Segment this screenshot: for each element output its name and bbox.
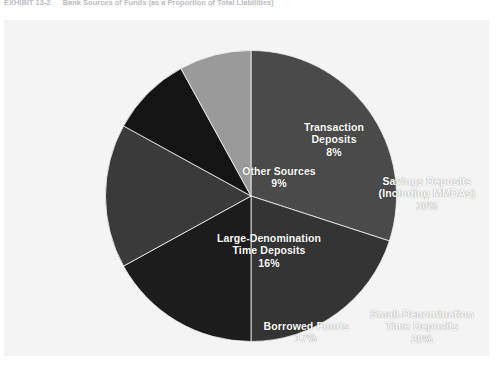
chart-panel: Savings Deposits (Including MMDAs) 30% S… (4, 20, 489, 356)
pie-chart: Savings Deposits (Including MMDAs) 30% S… (105, 50, 397, 342)
exhibit-caption: EXHIBIT 13-2 Bank Sources of Funds (as a… (4, 0, 474, 8)
exhibit-title: Bank Sources of Funds (as a Proportion o… (63, 0, 274, 7)
pie-chart-svg (105, 50, 397, 342)
pie-slice-group (105, 51, 396, 342)
exhibit-number: EXHIBIT 13-2 (4, 0, 51, 7)
